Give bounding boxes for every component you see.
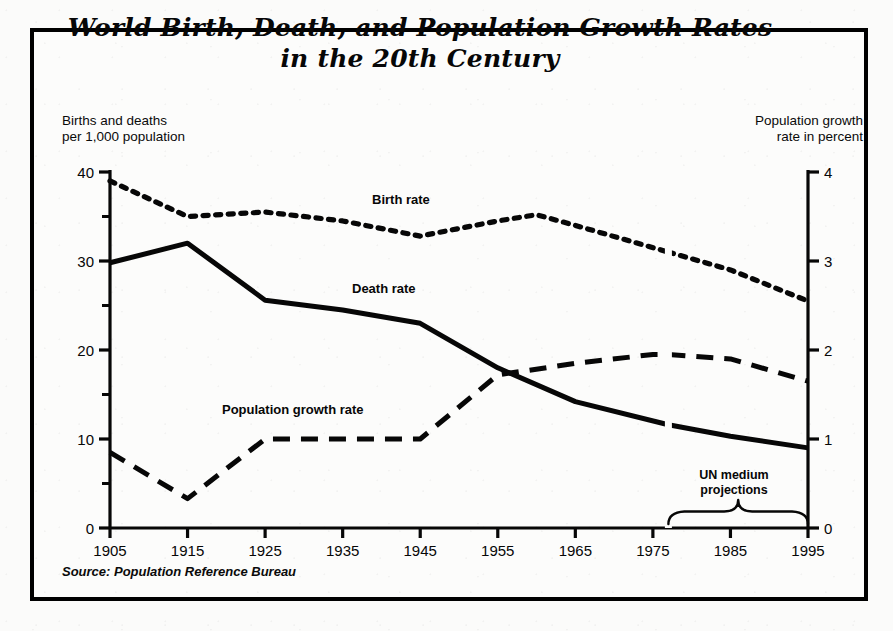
x-tick-label-1965: 1965 <box>559 542 592 559</box>
y2-tick-label-3: 3 <box>824 253 832 270</box>
x-tick-label-1975: 1975 <box>636 542 669 559</box>
x-tick-label-1985: 1985 <box>714 542 747 559</box>
right-axis-header-line-1: Population growth <box>755 113 863 129</box>
projection-annotation-line-2: projections <box>676 483 792 498</box>
series-label-death-rate: Death rate <box>352 281 416 296</box>
y-tick-label-40: 40 <box>77 164 94 181</box>
left-axis-header: Births and deaths per 1,000 population <box>62 113 185 145</box>
source-note: Source: Population Reference Bureau <box>62 564 296 579</box>
projection-annotation-line-1: UN medium <box>676 468 792 483</box>
left-axis-header-line-1: Births and deaths <box>62 113 185 129</box>
x-tick-label-1905: 1905 <box>93 542 126 559</box>
x-tick-label-1945: 1945 <box>404 542 437 559</box>
right-axis-header: Population growth rate in percent <box>755 113 863 145</box>
x-tick-label-1925: 1925 <box>248 542 281 559</box>
x-tick-label-1935: 1935 <box>326 542 359 559</box>
y2-tick-label-0: 0 <box>824 520 832 537</box>
projection-annotation: UN medium projections <box>676 468 792 498</box>
chart-title-line-1: World Birth, Death, and Population Growt… <box>60 12 780 43</box>
right-axis-header-line-2: rate in percent <box>755 129 863 145</box>
y2-tick-label-4: 4 <box>824 164 832 181</box>
chart-figure: World Birth, Death, and Population Growt… <box>0 0 893 631</box>
x-tick-label-1995: 1995 <box>791 542 824 559</box>
y2-tick-label-2: 2 <box>824 342 832 359</box>
y-tick-label-0: 0 <box>86 520 94 537</box>
left-axis-header-line-2: per 1,000 population <box>62 129 185 145</box>
y-tick-label-20: 20 <box>77 342 94 359</box>
y2-tick-label-1: 1 <box>824 431 832 448</box>
y-tick-label-10: 10 <box>77 431 94 448</box>
series-label-birth-rate: Birth rate <box>372 192 430 207</box>
x-tick-label-1915: 1915 <box>171 542 204 559</box>
chart-title: World Birth, Death, and Population Growt… <box>60 12 780 74</box>
x-tick-label-1955: 1955 <box>481 542 514 559</box>
y-tick-label-30: 30 <box>77 253 94 270</box>
chart-title-line-2: in the 20th Century <box>60 43 780 74</box>
series-label-population-growth-rate: Population growth rate <box>222 402 364 417</box>
